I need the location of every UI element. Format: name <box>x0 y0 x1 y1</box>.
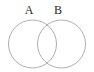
venn-diagram-figure: A B <box>0 0 94 72</box>
figure-background <box>0 0 94 72</box>
set-a-label: A <box>25 3 34 17</box>
venn-diagram-canvas: A B <box>0 0 94 72</box>
set-b-label: B <box>54 3 62 17</box>
